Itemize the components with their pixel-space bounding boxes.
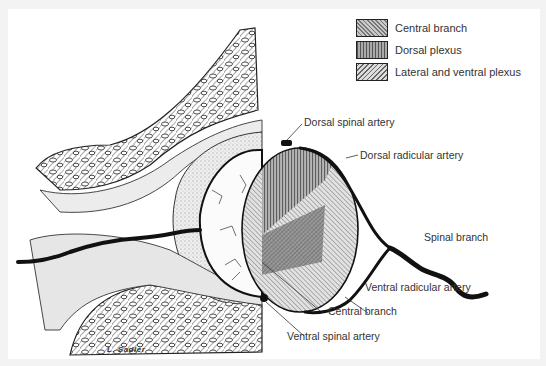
legend-label: Central branch <box>395 22 467 34</box>
central-branch-swatch-icon <box>356 19 388 37</box>
legend-item-central-branch: Central branch <box>356 17 521 39</box>
artist-signature: L. Sadler <box>107 345 145 354</box>
label-dorsal-radicular-artery: Dorsal radicular artery <box>360 149 463 161</box>
label-spinal-branch: Spinal branch <box>424 231 488 243</box>
lateral-ventral-plexus-swatch-icon <box>356 63 388 81</box>
dorsal-plexus-swatch-icon <box>356 41 388 59</box>
legend-item-lateral-ventral-plexus: Lateral and ventral plexus <box>356 61 521 83</box>
legend-label: Lateral and ventral plexus <box>395 66 521 78</box>
label-central-branch: Central branch <box>328 305 397 317</box>
label-ventral-radicular-artery: Ventral radicular artery <box>365 281 471 293</box>
legend: Central branch Dorsal plexus Lateral and… <box>356 17 521 83</box>
label-ventral-spinal-artery: Ventral spinal artery <box>287 330 380 342</box>
ventral-spinal-artery-marker <box>260 294 268 302</box>
dorsal-spinal-artery-marker <box>281 140 292 146</box>
label-dorsal-spinal-artery: Dorsal spinal artery <box>304 116 394 128</box>
legend-item-dorsal-plexus: Dorsal plexus <box>356 39 521 61</box>
legend-label: Dorsal plexus <box>395 44 462 56</box>
